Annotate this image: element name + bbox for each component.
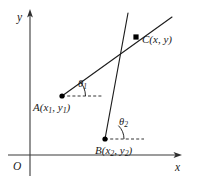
angle-label-theta2: θ2 (119, 117, 128, 129)
y-axis-label: y (17, 12, 22, 24)
point-label-b: B(x2, y2) (95, 145, 132, 158)
angle-label-theta1: θ1 (78, 79, 87, 91)
point-label-c-close: ) (168, 33, 172, 45)
point-label-c: C(x, y) (142, 34, 172, 45)
point-label-a-close: ) (67, 101, 71, 113)
angle-label-theta1-sub: 1 (83, 82, 87, 91)
x-axis-label: x (175, 162, 180, 174)
point-dot-a (59, 93, 64, 98)
point-label-a-name: A (33, 101, 40, 113)
point-label-b-name: B (95, 144, 102, 156)
origin-label: O (13, 161, 21, 173)
angle-label-theta2-sub: 2 (124, 120, 128, 129)
point-label-b-close: ) (129, 144, 133, 156)
point-dot-c (133, 34, 138, 39)
point-dot-b (102, 136, 107, 141)
geometry-figure: y x O A(x1, y1) B(x2, y2) C(x, y) θ1 θ2 (0, 0, 197, 182)
point-label-a: A(x1, y1) (33, 102, 70, 115)
